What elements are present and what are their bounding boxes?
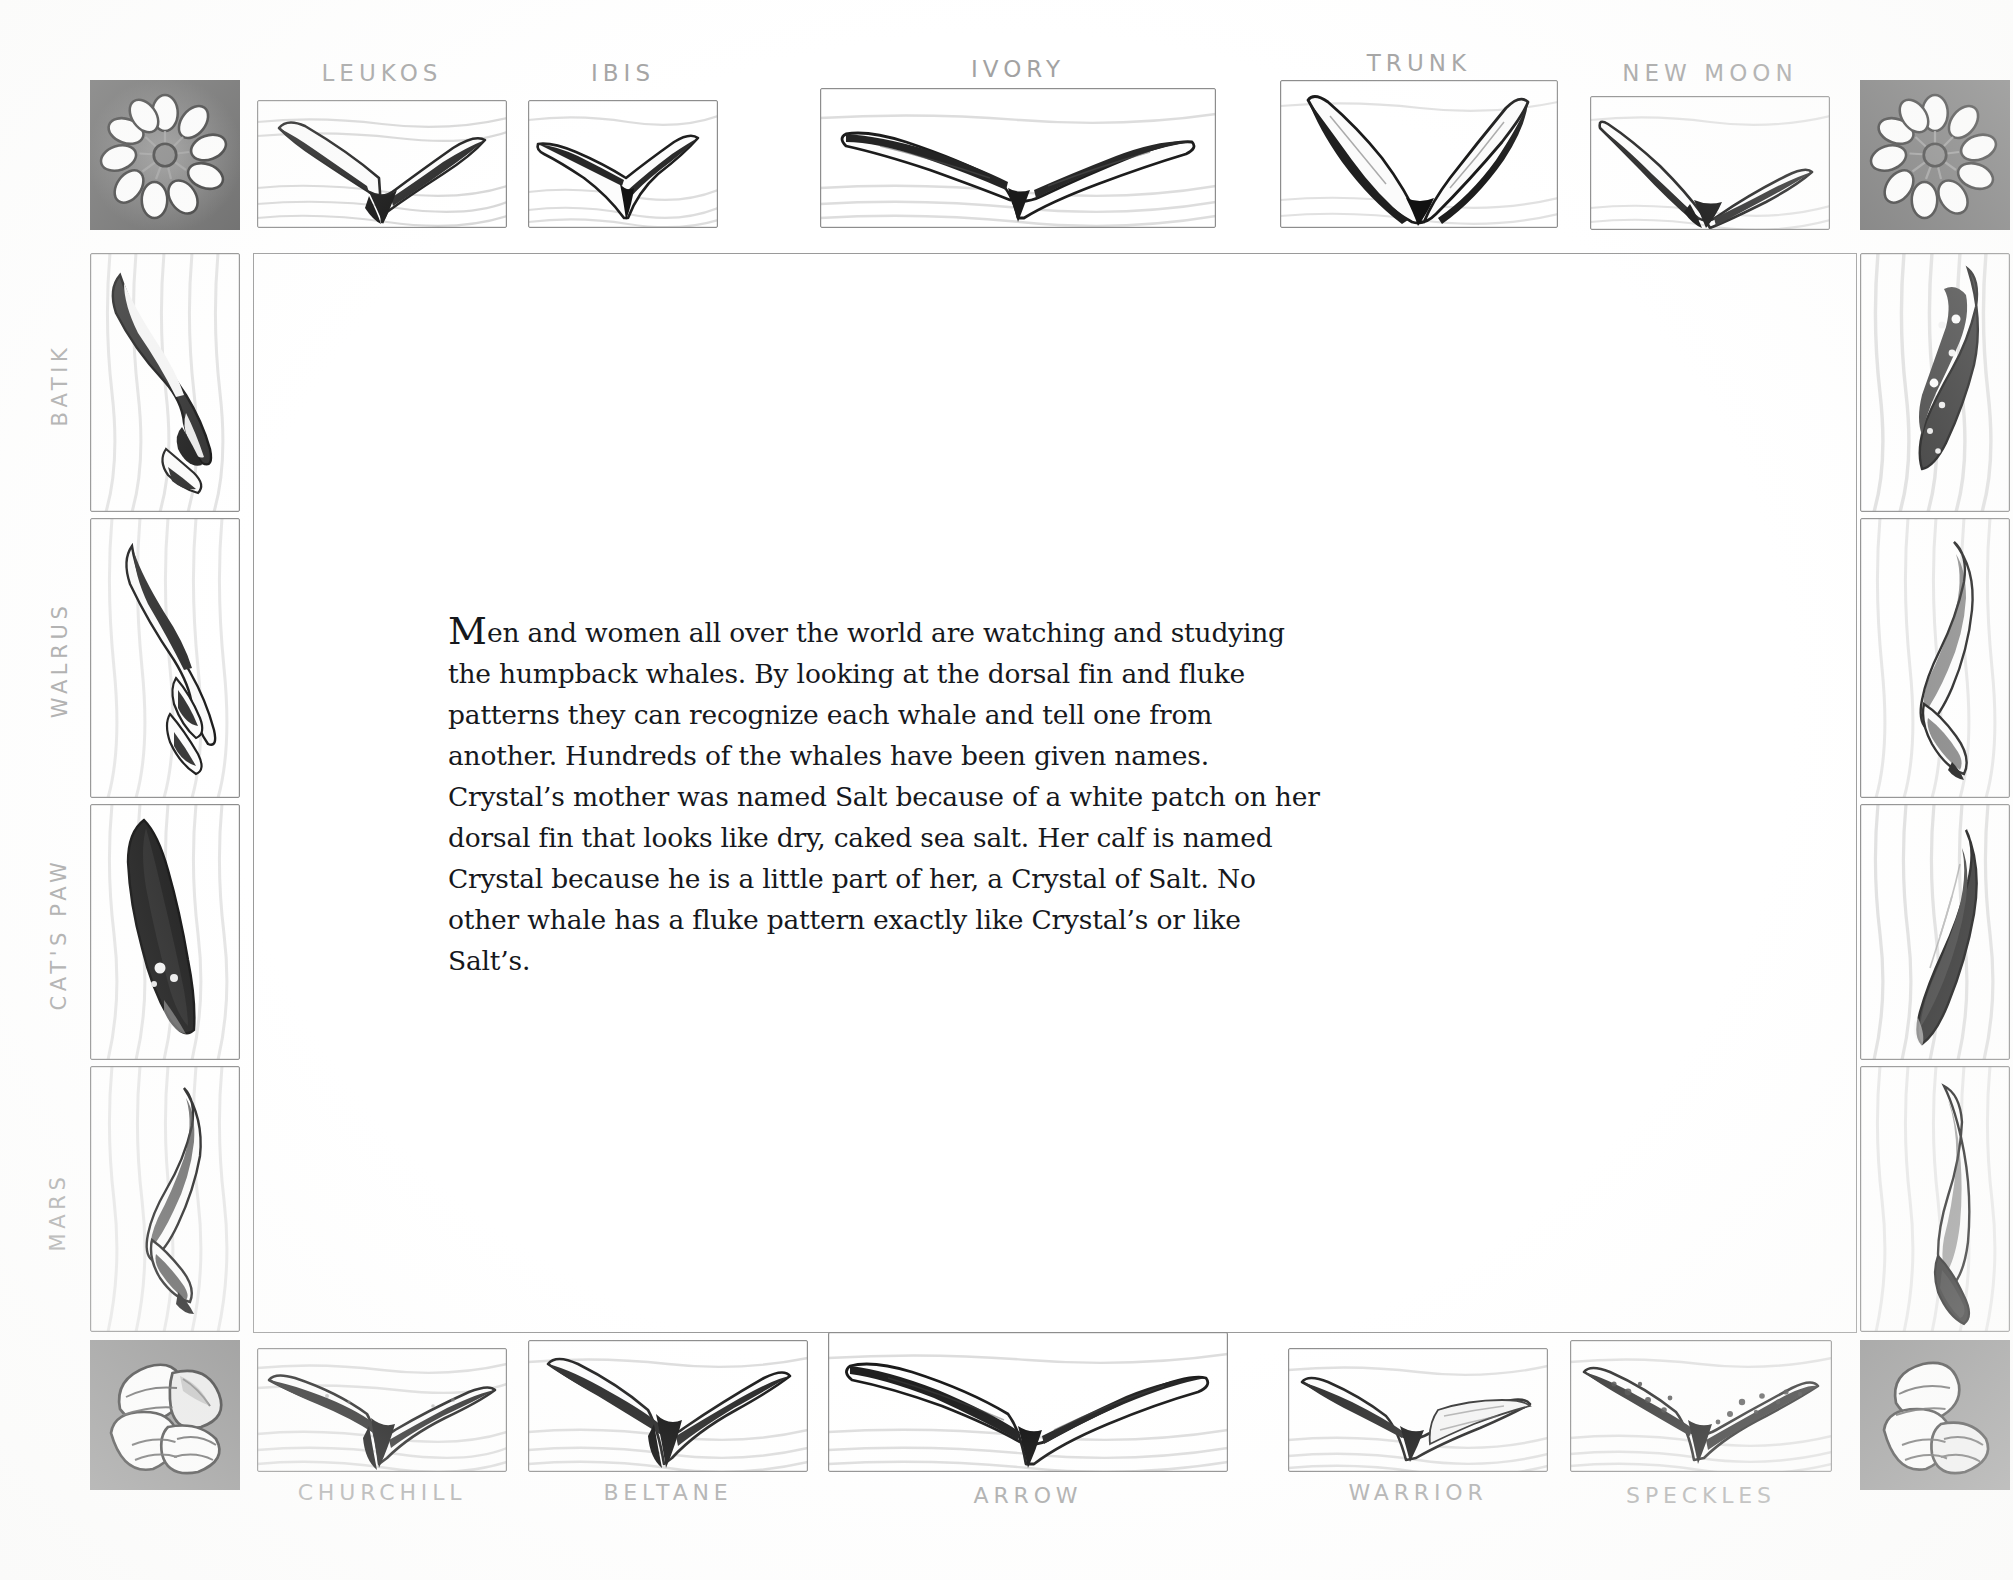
barnacle-cluster-icon — [1860, 1340, 2010, 1490]
page-canvas: Men and women all over the world are wat… — [0, 0, 2013, 1580]
fluke-tile-batik — [90, 253, 240, 512]
label-ivory: IVORY — [820, 56, 1216, 82]
corner-tile-top-left — [90, 80, 240, 230]
fluke-tile-new-moon — [1590, 96, 1830, 230]
whale-fluke-icon — [528, 1340, 808, 1472]
whale-fluke-icon — [1860, 253, 2010, 512]
label-speckles: SPECKLES — [1570, 1483, 1832, 1508]
paragraph-text: en and women all over the world are watc… — [448, 617, 1320, 976]
whale-fluke-icon — [828, 1332, 1228, 1472]
label-arrow: ARROW — [828, 1483, 1228, 1508]
whale-fluke-icon — [1570, 1340, 1832, 1472]
label-mars: MARS — [46, 1112, 70, 1312]
label-walrus: WALRUS — [48, 560, 72, 760]
fluke-tile-ibis — [528, 100, 718, 228]
whale-fluke-icon — [820, 88, 1216, 228]
fluke-tile-mars — [90, 1066, 240, 1332]
barnacle-cluster-icon — [90, 1340, 240, 1490]
fluke-tile-right-1 — [1860, 253, 2010, 512]
whale-fluke-icon — [1860, 518, 2010, 798]
body-paragraph: Men and women all over the world are wat… — [448, 612, 1328, 981]
label-churchill: CHURCHILL — [257, 1480, 507, 1505]
fluke-tile-right-3 — [1860, 804, 2010, 1060]
corner-tile-bottom-right — [1860, 1340, 2010, 1490]
whale-fluke-icon — [1860, 804, 2010, 1060]
whale-fluke-icon — [1860, 1066, 2010, 1332]
fluke-tile-right-2 — [1860, 518, 2010, 798]
label-cats-paw: CAT'S PAW — [47, 829, 71, 1039]
fluke-tile-churchill — [257, 1348, 507, 1472]
barnacle-rosette-icon — [1860, 80, 2010, 230]
whale-fluke-icon — [1590, 96, 1830, 230]
fluke-tile-speckles — [1570, 1340, 1832, 1472]
paragraph-dropcap: M — [448, 609, 487, 653]
corner-tile-top-right — [1860, 80, 2010, 230]
fluke-tile-warrior — [1288, 1348, 1548, 1472]
label-new-moon: NEW MOON — [1590, 60, 1830, 86]
fluke-tile-leukos — [257, 100, 507, 228]
barnacle-rosette-icon — [90, 80, 240, 230]
fluke-tile-walrus — [90, 518, 240, 798]
fluke-tile-beltane — [528, 1340, 808, 1472]
label-trunk: TRUNK — [1280, 50, 1558, 76]
fluke-tile-ivory — [820, 88, 1216, 228]
whale-fluke-icon — [257, 100, 507, 228]
whale-fluke-icon — [1288, 1348, 1548, 1472]
whale-fluke-icon — [90, 1066, 240, 1332]
fluke-tile-trunk — [1280, 80, 1558, 228]
corner-tile-bottom-left — [90, 1340, 240, 1490]
label-batik: BATIK — [48, 285, 72, 485]
label-ibis: IBIS — [528, 60, 718, 86]
whale-fluke-icon — [90, 518, 240, 798]
label-leukos: LEUKOS — [257, 60, 507, 86]
whale-fluke-icon — [1280, 80, 1558, 228]
whale-fluke-icon — [90, 804, 240, 1060]
label-beltane: BELTANE — [528, 1480, 808, 1505]
whale-fluke-icon — [528, 100, 718, 228]
fluke-tile-cats-paw — [90, 804, 240, 1060]
whale-fluke-icon — [90, 253, 240, 512]
fluke-tile-right-4 — [1860, 1066, 2010, 1332]
label-warrior: WARRIOR — [1288, 1480, 1548, 1505]
whale-fluke-icon — [257, 1348, 507, 1472]
fluke-tile-arrow — [828, 1332, 1228, 1472]
